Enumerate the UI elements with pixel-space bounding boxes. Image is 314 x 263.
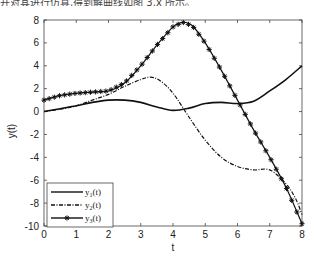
legend-label-2: y2(t) — [85, 200, 101, 211]
asterisk-marker — [201, 39, 206, 44]
asterisk-marker — [243, 112, 248, 117]
asterisk-marker — [268, 157, 273, 162]
y-tick-label: -2 — [30, 129, 39, 140]
asterisk-marker — [108, 87, 113, 92]
asterisk-marker — [41, 98, 46, 103]
x-tick-label: 0 — [41, 229, 47, 240]
x-tick-label: 3 — [138, 229, 144, 240]
y-axis-label: y(t) — [6, 124, 17, 138]
asterisk-marker — [237, 102, 242, 107]
asterisk-marker — [232, 93, 237, 98]
y-tick-label: 8 — [33, 15, 39, 26]
asterisk-marker — [139, 62, 144, 67]
asterisk-marker — [186, 22, 191, 27]
asterisk-marker — [294, 209, 299, 214]
asterisk-marker — [124, 78, 129, 83]
series-y1t-line — [44, 66, 302, 112]
asterisk-marker — [78, 90, 83, 95]
x-tick-label: 2 — [106, 229, 112, 240]
x-tick-label: 8 — [299, 229, 305, 240]
legend-label-3: y3(t) — [85, 213, 101, 224]
asterisk-marker — [227, 83, 232, 88]
y-tick-label: 4 — [33, 60, 39, 71]
asterisk-marker — [114, 85, 119, 90]
line-chart: 012345678-10-8-6-4-202468ty(t)y1(t)y2(t)… — [0, 0, 314, 263]
x-axis-label: t — [172, 242, 175, 253]
asterisk-marker — [274, 167, 279, 172]
legend-label-1: y1(t) — [85, 187, 101, 198]
y-tick-label: -4 — [30, 152, 39, 163]
asterisk-marker — [196, 32, 201, 37]
asterisk-marker — [181, 20, 186, 25]
y-tick-label: 2 — [33, 83, 39, 94]
asterisk-marker — [98, 89, 103, 94]
x-tick-label: 5 — [202, 229, 208, 240]
y-tick-label: -8 — [30, 198, 39, 209]
y-tick-label: 0 — [33, 106, 39, 117]
asterisk-marker — [119, 82, 124, 87]
asterisk-marker — [279, 176, 284, 181]
asterisk-marker — [155, 42, 160, 47]
asterisk-marker — [47, 96, 52, 101]
asterisk-marker — [284, 186, 289, 191]
asterisk-marker — [93, 89, 98, 94]
asterisk-marker — [253, 131, 258, 136]
x-tick-label: 6 — [235, 229, 241, 240]
asterisk-marker — [83, 90, 88, 95]
asterisk-marker — [88, 90, 93, 95]
asterisk-marker — [258, 139, 263, 144]
asterisk-marker — [165, 30, 170, 35]
y-tick-label: -10 — [25, 221, 40, 232]
asterisk-marker — [263, 148, 268, 153]
x-tick-label: 1 — [73, 229, 79, 240]
x-tick-label: 4 — [170, 229, 176, 240]
asterisk-marker — [62, 92, 67, 97]
asterisk-marker — [134, 67, 139, 72]
asterisk-marker — [103, 89, 108, 94]
x-tick-label: 7 — [267, 229, 273, 240]
asterisk-marker — [248, 121, 253, 126]
asterisk-marker — [67, 92, 72, 97]
asterisk-marker — [299, 221, 304, 226]
asterisk-marker — [176, 22, 181, 27]
asterisk-marker — [72, 91, 77, 96]
asterisk-marker — [57, 93, 62, 98]
asterisk-marker — [289, 198, 294, 203]
y-tick-label: 6 — [33, 37, 39, 48]
legend-asterisk-icon — [64, 215, 69, 220]
asterisk-marker — [217, 64, 222, 69]
asterisk-marker — [222, 74, 227, 79]
asterisk-marker — [52, 95, 57, 100]
asterisk-marker — [170, 24, 175, 29]
y-tick-label: -6 — [30, 175, 39, 186]
